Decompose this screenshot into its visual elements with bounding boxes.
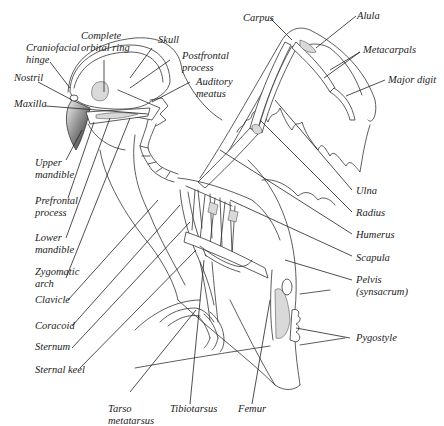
label-pygostyle: Pygostyle xyxy=(356,332,397,344)
label-skull: Skull xyxy=(158,34,179,46)
label-sternum: Sternum xyxy=(35,341,70,353)
label-major-digit: Major digit xyxy=(388,74,436,86)
label-metacarpals: Metacarpals xyxy=(363,44,416,56)
label-coracoid: Coracoid xyxy=(35,320,75,332)
label-lower-mandible: Lower mandible xyxy=(35,232,74,255)
label-femur: Femur xyxy=(238,403,266,415)
skull xyxy=(66,45,170,150)
label-complete-orbital-ring: Complete orbital ring xyxy=(81,30,130,53)
label-radius: Radius xyxy=(356,207,385,219)
label-maxilla: Maxilla xyxy=(14,98,47,110)
label-auditory-meatus: Auditory meatus xyxy=(196,76,233,99)
label-tibiotarsus: Tibiotarsus xyxy=(170,403,217,415)
label-scapula: Scapula xyxy=(356,252,390,264)
label-upper-mandible: Upper mandible xyxy=(35,157,74,180)
label-sternal-keel: Sternal keel xyxy=(35,364,85,376)
label-prefrontal-process: Prefrontal process xyxy=(35,195,78,218)
label-postfrontal-process: Postfrontal process xyxy=(182,50,229,73)
label-pelvis: Pelvis (synsacrum) xyxy=(356,274,408,297)
label-nostril: Nostril xyxy=(14,72,43,84)
parrot-skeleton-diagram: Complete orbital ring Craniofacial hinge… xyxy=(0,0,444,426)
label-ulna: Ulna xyxy=(356,185,377,197)
label-carpus: Carpus xyxy=(243,12,274,24)
label-tarso-metatarsus: Tarso metatarsus xyxy=(108,403,154,426)
neck-vertebrae xyxy=(140,120,178,182)
ribcage xyxy=(178,178,280,305)
label-clavicle: Clavicle xyxy=(35,294,70,306)
label-zygomatic-arch: Zygomatic arch xyxy=(35,266,79,289)
label-humerus: Humerus xyxy=(356,229,395,241)
label-alula: Alula xyxy=(357,10,380,22)
label-craniofacial-hinge: Craniofacial hinge xyxy=(26,42,80,65)
